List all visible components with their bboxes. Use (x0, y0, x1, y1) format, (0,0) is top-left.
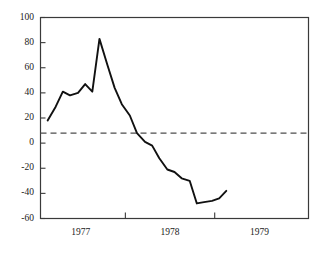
line-chart-canvas (0, 0, 326, 262)
y-axis-tick-label: 0 (4, 138, 34, 148)
y-axis-tick-label: 40 (4, 88, 34, 98)
y-axis-tick-label: 100 (4, 13, 34, 23)
chart-figure: 100806040200-20-40-60 197719781979 (0, 0, 326, 262)
x-axis-year-label: 1977 (71, 228, 90, 238)
y-axis-tick-label: 60 (4, 63, 34, 73)
x-axis-year-label: 1978 (161, 228, 180, 238)
y-axis-tick-label: -20 (4, 164, 34, 174)
y-axis-tick-label: -40 (4, 189, 34, 199)
y-axis-tick-label: -60 (4, 214, 34, 224)
y-axis-tick-label: 20 (4, 113, 34, 123)
y-axis-tick-label: 80 (4, 38, 34, 48)
x-axis-year-label: 1979 (250, 228, 269, 238)
chart-background (0, 0, 326, 262)
